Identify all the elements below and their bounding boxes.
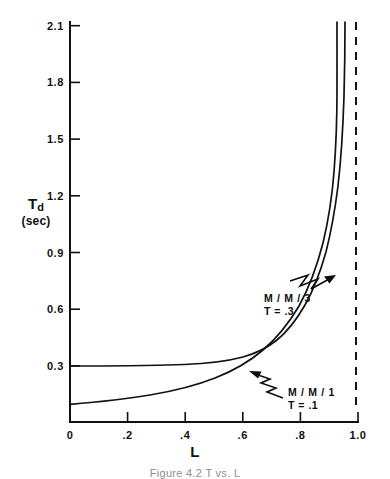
x-tick-label-0-8: .8 (295, 430, 305, 441)
y-axis-label-subscript: d (37, 201, 44, 213)
y-axis-label-base: T (28, 195, 37, 212)
y-tick-label-0-3: 0.3 (24, 360, 64, 371)
mm1-annotation-line2: T = .1 (288, 399, 335, 412)
curve-mm1 (70, 22, 337, 404)
mm3-annotation-line1: M / M / 3 (264, 292, 311, 304)
y-tick-label-0-9: 0.9 (24, 247, 64, 258)
x-tick-label-0-6: .6 (238, 430, 248, 441)
x-tick-marks (70, 412, 358, 422)
mm1-annotation: M / M / 1 T = .1 (288, 386, 335, 412)
y-tick-label-0-6: 0.6 (24, 304, 64, 315)
x-tick-label-0-4: .4 (180, 430, 190, 441)
y-tick-label-2-1: 2.1 (24, 20, 64, 31)
x-tick-label-0-2: .2 (122, 430, 132, 441)
y-axis-label-units: (sec) (8, 215, 64, 228)
y-axis-label: Td (sec) (8, 196, 64, 228)
y-tick-label-1-5: 1.5 (24, 134, 64, 145)
x-tick-label-0: 0 (67, 430, 74, 441)
mm1-leader (249, 371, 283, 398)
mm1-annotation-line1: M / M / 1 (288, 386, 335, 398)
y-tick-marks (70, 26, 80, 366)
y-axis-label-symbol: Td (8, 196, 64, 214)
mm3-annotation-line2: T = .3 (264, 305, 311, 318)
figure-caption: Figure 4.2 T vs. L (0, 467, 390, 479)
mm3-annotation: M / M / 3 T = .3 (264, 292, 311, 318)
y-tick-label-1-8: 1.8 (24, 77, 64, 88)
x-tick-label-1-0: 1.0 (349, 430, 366, 441)
x-axis-label: L (0, 443, 390, 460)
